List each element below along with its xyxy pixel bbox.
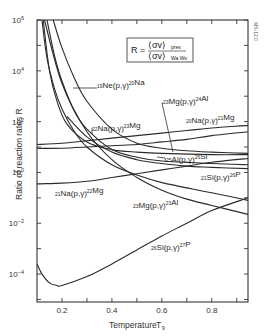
curve-label: 20Na(p,γ)21Mg: [186, 113, 234, 125]
formula-numerator: ⟨σv⟩: [148, 40, 166, 50]
curve-label: 23Mg(p,γ)23Al: [133, 198, 179, 210]
x-axis-label-symbol: T: [156, 320, 161, 330]
curve-label: 19Ne(p,γ)20Na: [97, 78, 145, 90]
curve-label: 21Na(p,γ)22Mg: [55, 186, 103, 198]
curve-label: 22Na(p,γ)23Mg: [92, 121, 140, 133]
x-tick-label: 0.8: [206, 306, 218, 315]
formula-numerator-sub: pres: [171, 44, 181, 50]
x-tick-label: 0.6: [156, 306, 168, 315]
y-tick-label: 10−2: [9, 218, 24, 228]
reaction-rate-ratio-chart: 0.20.40.60.8 10610410210010−210−4 19Ne(p…: [0, 0, 267, 336]
y-axis-label: Ratio of reaction rates R: [14, 108, 24, 200]
formula-r: R =: [131, 45, 145, 55]
y-tick-label: 104: [12, 66, 24, 76]
curve-label: 26Si(p,γ)27P: [151, 240, 191, 252]
figure-id: MS-12.0: [253, 22, 259, 41]
y-tick-label: 106: [12, 15, 24, 25]
formula-denominator: ⟨σv⟩: [148, 51, 166, 61]
curve-label: 21Si(p,γ)26P: [201, 170, 241, 182]
x-tick-label: 0.2: [56, 306, 68, 315]
x-axis-label-subscript: 9: [162, 325, 165, 331]
y-tick-label: 10−4: [9, 269, 24, 279]
curve-line: [37, 132, 248, 149]
x-axis-label: Temperature T 9: [109, 320, 165, 331]
x-axis-label-text: Temperature: [109, 320, 157, 330]
curve-label: 23Mg(p,γ)24Al: [163, 94, 209, 106]
x-tick-label: 0.4: [106, 306, 118, 315]
curve-line: [37, 198, 248, 286]
curve-labels: 19Ne(p,γ)20Na22Na(p,γ)23Mg23Mg(p,γ)24Al2…: [55, 78, 241, 252]
formula-denominator-sub: Wa Wo: [171, 55, 187, 61]
formula-box: R = ⟨σv⟩ pres ⟨σv⟩ Wa Wo: [127, 38, 193, 62]
